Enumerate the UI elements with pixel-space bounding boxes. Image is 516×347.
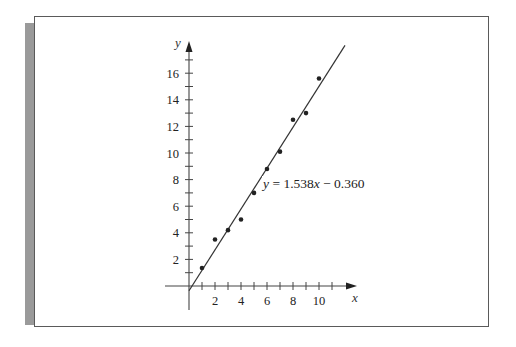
equation-equals: = — [269, 176, 283, 191]
x-tick-label: 2 — [212, 294, 218, 308]
y-axis-arrow-icon — [186, 41, 193, 52]
regression-equation: y = 1.538x − 0.360 — [262, 176, 366, 192]
y-tick-label: 14 — [167, 93, 180, 107]
tick-marks — [185, 60, 332, 290]
y-tick-label: 16 — [167, 67, 180, 81]
y-tick-label: 2 — [173, 253, 179, 267]
equation-coefficient: 1.538 — [283, 176, 313, 191]
data-point — [226, 228, 231, 233]
data-point — [239, 217, 244, 222]
equation-intercept: − 0.360 — [320, 176, 365, 191]
y-tick-label: 8 — [173, 173, 179, 187]
x-tick-label: 6 — [264, 294, 270, 308]
data-point — [291, 117, 296, 122]
y-tick-label: 4 — [173, 226, 180, 240]
scatter-plot: 246810246810121416 x y — [0, 0, 516, 347]
x-tick-label: 4 — [238, 294, 245, 308]
y-tick-label: 10 — [167, 147, 180, 161]
x-axis-label: x — [351, 290, 358, 305]
data-point — [252, 191, 257, 196]
x-axis-arrow-icon — [346, 283, 357, 290]
y-axis-label: y — [173, 35, 181, 50]
x-tick-label: 8 — [290, 294, 296, 308]
data-point — [265, 167, 270, 172]
data-point — [317, 76, 322, 81]
x-tick-label: 10 — [313, 294, 326, 308]
y-tick-label: 6 — [173, 200, 179, 214]
data-points — [200, 76, 322, 270]
data-point — [304, 111, 309, 116]
data-point — [278, 149, 283, 154]
data-point — [213, 237, 218, 242]
data-point — [200, 266, 205, 271]
y-tick-label: 12 — [167, 120, 180, 134]
